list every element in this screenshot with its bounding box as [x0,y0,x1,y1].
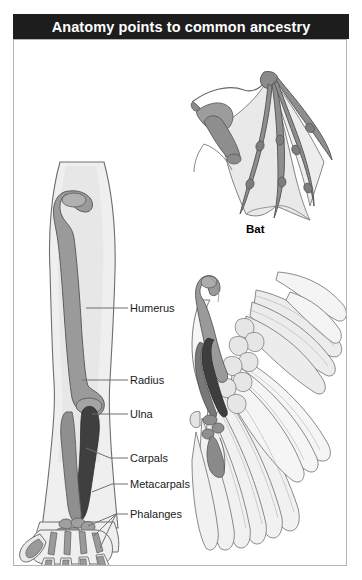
human-arm-illustration [22,160,137,560]
figure-title: Anatomy points to common ancestry [52,19,311,35]
human-hand-illustration [18,530,138,566]
bone-label-phalanges: Phalanges [130,508,182,520]
figure-title-bar: Anatomy points to common ancestry [13,14,349,39]
bone-label-ulna: Ulna [130,408,153,420]
bone-label-carpals: Carpals [130,452,168,464]
bat-wing-illustration [182,58,342,223]
bone-label-metacarpals: Metacarpals [130,478,190,490]
caption-bat: Bat [246,223,265,235]
bird-wing-illustration [182,262,347,562]
anatomy-figure: Anatomy points to common ancestry [13,14,349,568]
bone-label-radius: Radius [130,374,164,386]
bone-label-humerus: Humerus [130,302,175,314]
figure-panel: Humerus Radius Ulna Carpals Metacarpals … [13,39,347,566]
